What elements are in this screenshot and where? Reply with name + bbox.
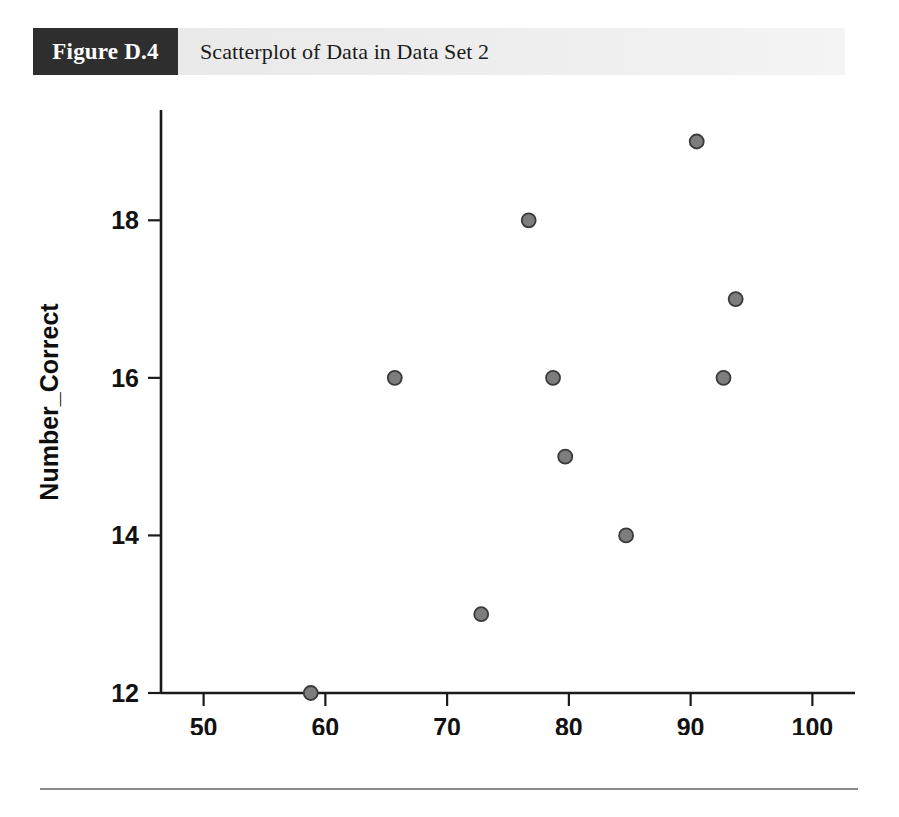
data-point-marker	[729, 292, 743, 306]
scatterplot-canvas: 12141618 5060708090100 Number_Correct At…	[0, 95, 899, 735]
scatterplot-figure: 12141618 5060708090100 Number_Correct At…	[0, 95, 899, 735]
data-point-marker	[558, 450, 572, 464]
data-point-marker	[717, 371, 731, 385]
x-tick-label: 100	[792, 713, 834, 735]
y-tick-label: 12	[111, 679, 139, 707]
data-point-marker	[388, 371, 402, 385]
y-axis-ticks: 12141618	[111, 206, 161, 707]
figure-header-banner: Figure D.4 Scatterplot of Data in Data S…	[33, 28, 845, 75]
x-tick-label: 80	[555, 713, 583, 735]
data-point-marker	[619, 528, 633, 542]
y-tick-label: 14	[111, 521, 139, 549]
data-point-marker	[474, 607, 488, 621]
x-tick-label: 50	[190, 713, 218, 735]
data-point-marker	[546, 371, 560, 385]
footer-divider-rule	[40, 788, 858, 790]
data-point-marker	[690, 135, 704, 149]
figure-caption-text: Scatterplot of Data in Data Set 2	[178, 28, 489, 75]
x-tick-label: 90	[677, 713, 705, 735]
data-points-group	[304, 135, 743, 700]
data-point-marker	[304, 686, 318, 700]
y-tick-label: 18	[111, 206, 139, 234]
data-point-marker	[522, 213, 536, 227]
x-tick-label: 60	[311, 713, 339, 735]
x-axis-ticks: 5060708090100	[190, 693, 834, 735]
x-tick-label: 70	[433, 713, 461, 735]
y-tick-label: 16	[111, 364, 139, 392]
axes-group	[161, 110, 855, 693]
figure-number-label: Figure D.4	[33, 28, 178, 75]
y-axis-title: Number_Correct	[35, 303, 63, 501]
